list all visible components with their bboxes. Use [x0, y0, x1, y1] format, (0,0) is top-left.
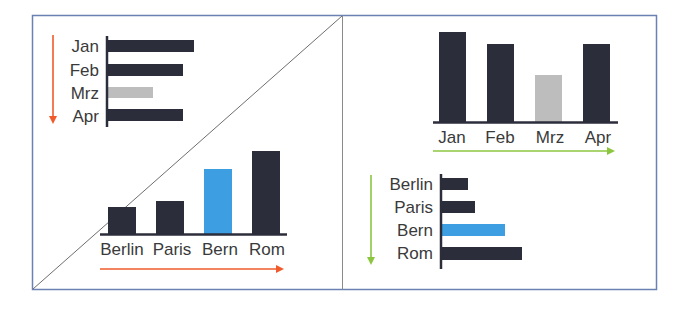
category-label: Mrz — [536, 128, 564, 147]
bar-mrz — [108, 87, 153, 98]
category-label: Apr — [73, 107, 100, 126]
bar-apr — [108, 109, 183, 121]
bar-bern — [204, 169, 232, 234]
category-label: Bern — [202, 240, 238, 259]
category-label: Jan — [438, 128, 465, 147]
bar-jan — [108, 40, 194, 52]
category-label: Paris — [153, 240, 192, 259]
category-label: Jan — [72, 37, 99, 56]
bar-feb — [487, 44, 514, 122]
bar-mrz — [535, 75, 562, 122]
bar-paris — [156, 201, 184, 234]
bar-paris — [442, 201, 475, 213]
chart-orientation-diagram: Jan Feb Mrz Apr Berlin Paris Bern Rom Ja… — [0, 0, 681, 311]
category-label: Rom — [397, 244, 433, 263]
chart-top-right: Jan Feb Mrz Apr — [433, 32, 618, 151]
bar-bern — [442, 224, 505, 236]
category-label: Rom — [249, 240, 285, 259]
category-label: Berlin — [100, 240, 143, 259]
category-label: Feb — [70, 61, 99, 80]
bar-berlin — [442, 178, 468, 190]
category-label: Apr — [585, 128, 612, 147]
category-label: Berlin — [390, 175, 433, 194]
chart-top-left: Jan Feb Mrz Apr — [53, 35, 194, 127]
chart-bottom-right: Berlin Paris Bern Rom — [371, 174, 522, 269]
chart-bottom-left: Berlin Paris Bern Rom — [100, 151, 287, 269]
category-label: Mrz — [71, 84, 99, 103]
bar-rom — [442, 247, 522, 260]
category-label: Feb — [485, 128, 514, 147]
bar-berlin — [108, 207, 136, 234]
bar-rom — [252, 151, 280, 234]
bar-jan — [439, 32, 466, 122]
category-label: Paris — [394, 198, 433, 217]
category-label: Bern — [397, 221, 433, 240]
bar-apr — [583, 44, 610, 122]
bar-feb — [108, 64, 183, 76]
